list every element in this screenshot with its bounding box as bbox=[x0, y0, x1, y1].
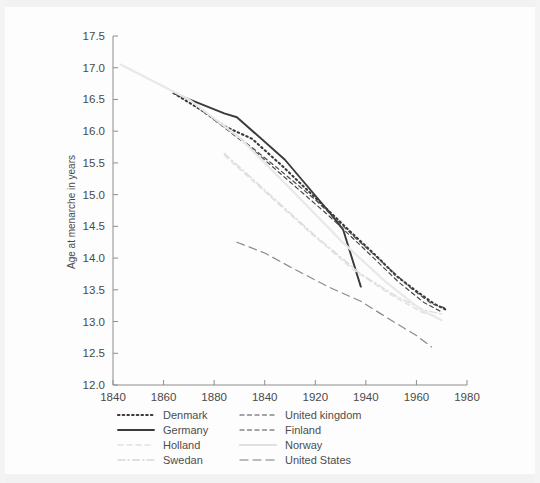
legend-label-norway: Norway bbox=[285, 439, 323, 451]
y-tick-label: 14.5 bbox=[83, 220, 105, 232]
y-tick-label: 16.0 bbox=[83, 125, 105, 137]
legend-label-germany: Germany bbox=[163, 424, 209, 436]
y-tick-label: 13.5 bbox=[83, 284, 105, 296]
line-chart: Age at menarche in years 12.012.513.013.… bbox=[0, 0, 540, 483]
legend-label-finland: Finland bbox=[285, 424, 321, 436]
series-line-germany bbox=[174, 93, 361, 287]
scan-edge-top bbox=[0, 0, 540, 7]
x-tick-label: 1880 bbox=[201, 391, 227, 403]
series-line-holland bbox=[224, 155, 436, 316]
x-tick-label: 1840 bbox=[100, 391, 126, 403]
y-tick-label: 16.5 bbox=[83, 93, 105, 105]
x-tick-label: 1980 bbox=[454, 391, 480, 403]
y-tick-label: 17.5 bbox=[83, 30, 105, 42]
series-line-norway bbox=[121, 65, 442, 321]
y-tick-label: 14.0 bbox=[83, 252, 105, 264]
x-tick-label: 1960 bbox=[404, 391, 430, 403]
y-axis-title: Age at menarche in years bbox=[66, 155, 77, 269]
scan-edge-left bbox=[0, 0, 5, 483]
legend-label-united-states: United States bbox=[285, 454, 352, 466]
legend-label-united-kingdom: United kingdom bbox=[285, 409, 361, 421]
scan-edge-right bbox=[535, 0, 540, 483]
scan-edge-bottom bbox=[0, 474, 540, 483]
y-tick-label: 12.5 bbox=[83, 347, 105, 359]
x-axis-ticks: 18401860188018401920194019601980 bbox=[100, 380, 480, 403]
legend-label-holland: Holland bbox=[163, 439, 200, 451]
x-tick-label: 1840 bbox=[252, 391, 278, 403]
y-tick-label: 13.0 bbox=[83, 316, 105, 328]
x-tick-label: 1940 bbox=[353, 391, 379, 403]
x-tick-label: 1860 bbox=[151, 391, 177, 403]
y-tick-label: 12.0 bbox=[83, 379, 105, 391]
y-tick-label: 15.5 bbox=[83, 157, 105, 169]
y-tick-label: 17.0 bbox=[83, 62, 105, 74]
y-tick-label: 15.0 bbox=[83, 189, 105, 201]
series-line-united-kingdom bbox=[204, 112, 444, 307]
chart-figure: Age at menarche in years 12.012.513.013.… bbox=[0, 0, 540, 483]
data-series-group bbox=[121, 65, 447, 347]
x-tick-label: 1920 bbox=[302, 391, 328, 403]
legend-label-swedan: Swedan bbox=[163, 454, 203, 466]
legend-label-denmark: Denmark bbox=[163, 409, 208, 421]
series-line-finland bbox=[214, 120, 442, 312]
chart-legend: DenmarkGermanyHollandSwedanUnited kingdo… bbox=[118, 409, 361, 466]
